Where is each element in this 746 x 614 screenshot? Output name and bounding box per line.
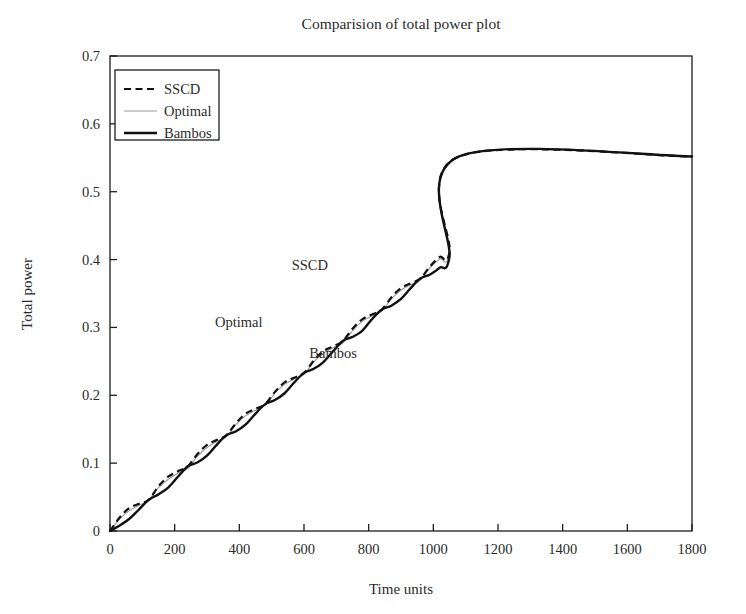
legend-label-optimal[interactable]: Optimal [164, 103, 212, 119]
y-tick-label: 0.6 [82, 116, 100, 132]
y-tick-label: 0.7 [82, 48, 100, 64]
x-tick-label: 1600 [613, 541, 642, 557]
y-tick-label: 0 [93, 523, 100, 539]
series-line-bambos [110, 149, 692, 531]
x-axis-label: Time units [369, 581, 433, 597]
x-tick-label: 0 [106, 541, 113, 557]
x-tick-label: 600 [293, 541, 315, 557]
annotation-bambos: Bambos [309, 345, 357, 361]
y-axis-ticks: 00.10.20.30.40.50.60.7 [82, 48, 117, 539]
series-line-optimal [110, 149, 692, 531]
x-tick-label: 200 [164, 541, 186, 557]
y-tick-label: 0.4 [82, 252, 101, 268]
series-group [110, 149, 692, 531]
x-tick-label: 1000 [419, 541, 448, 557]
legend-label-sscd[interactable]: SSCD [164, 81, 200, 97]
legend[interactable]: SSCDOptimalBambos [115, 70, 219, 141]
x-axis-ticks: 020040060080010001200140016001800 [106, 524, 706, 557]
x-tick-label: 1800 [678, 541, 707, 557]
y-tick-label: 0.2 [82, 387, 100, 403]
annotation-sscd: SSCD [292, 257, 328, 273]
series-line-sscd [110, 149, 692, 531]
annotation-optimal: Optimal [215, 314, 263, 330]
x-tick-label: 800 [358, 541, 380, 557]
legend-entries[interactable]: SSCDOptimalBambos [124, 81, 212, 141]
y-tick-label: 0.3 [82, 319, 100, 335]
chart-title: Comparision of total power plot [302, 15, 502, 32]
y-tick-label: 0.1 [82, 455, 100, 471]
x-tick-label: 1200 [484, 541, 513, 557]
x-tick-label: 1400 [548, 541, 577, 557]
curve-annotations: SSCDOptimalBambos [215, 257, 357, 361]
x-tick-label: 400 [228, 541, 250, 557]
total-power-chart: Comparision of total power plot Total po… [0, 0, 746, 614]
y-axis-label: Total power [19, 258, 35, 330]
y-tick-label: 0.5 [82, 184, 100, 200]
legend-label-bambos[interactable]: Bambos [164, 125, 212, 141]
